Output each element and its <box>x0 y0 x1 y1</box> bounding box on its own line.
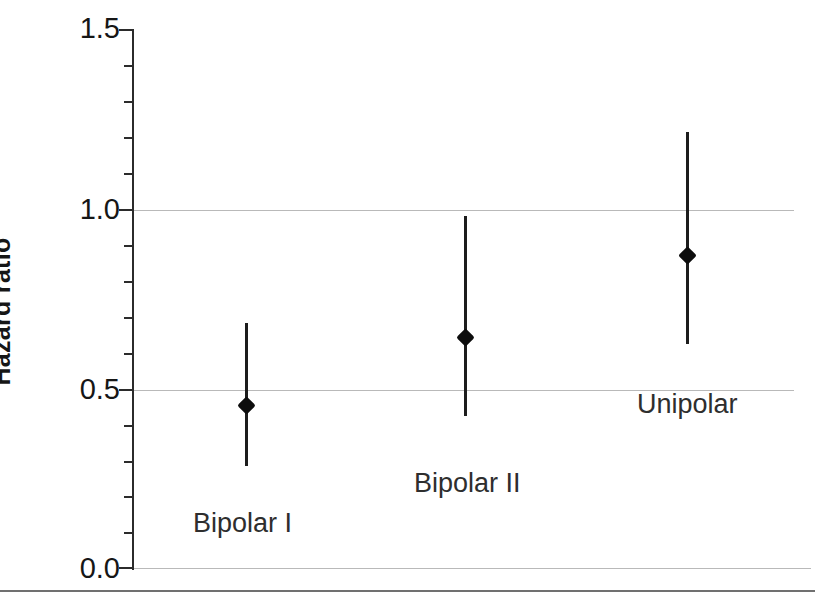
y-tick-minor-1-2 <box>124 137 133 139</box>
category-label-bipolar-i: Bipolar I <box>193 510 292 537</box>
figure-bottom-rule <box>0 590 815 592</box>
gridline-0-0 <box>132 568 811 569</box>
y-axis-spine <box>132 29 134 570</box>
y-tick-label-0-0: 0.0 <box>48 554 120 583</box>
hazard-ratio-chart: Hazard ratio 1.5 1.0 0.5 0.0 Bipolar I B… <box>0 0 815 607</box>
y-tick-minor-0-4 <box>124 425 133 427</box>
marker-bipolar-i <box>237 396 255 414</box>
y-tick-major-1-5 <box>119 29 133 31</box>
y-tick-label-1-0: 1.0 <box>48 195 120 224</box>
y-tick-minor-0-8 <box>124 281 133 283</box>
y-tick-major-0-5 <box>119 389 133 391</box>
gridline-1-0 <box>132 210 794 211</box>
y-tick-minor-1-3 <box>124 101 133 103</box>
y-tick-minor-0-1 <box>124 532 133 534</box>
y-tick-minor-1-1 <box>124 173 133 175</box>
y-axis-title-text: Hazard ratio <box>0 237 16 385</box>
errorbar-bipolar-i <box>245 323 248 466</box>
y-tick-minor-0-9 <box>124 245 133 247</box>
y-tick-major-1-0 <box>119 209 133 211</box>
y-tick-label-0-5: 0.5 <box>48 375 120 404</box>
y-tick-minor-1-4 <box>124 65 133 67</box>
y-tick-minor-0-7 <box>124 317 133 319</box>
y-tick-minor-0-3 <box>124 461 133 463</box>
errorbar-unipolar <box>686 132 689 344</box>
y-tick-minor-0-2 <box>124 496 133 498</box>
errorbar-bipolar-ii <box>464 216 467 416</box>
y-axis-title: Hazard ratio <box>0 0 46 607</box>
marker-bipolar-ii <box>456 328 474 346</box>
y-tick-label-1-5: 1.5 <box>48 14 120 43</box>
category-label-bipolar-ii: Bipolar II <box>414 470 521 497</box>
y-tick-major-0-0 <box>119 567 133 569</box>
category-label-unipolar: Unipolar <box>637 391 738 418</box>
marker-unipolar <box>678 246 696 264</box>
y-tick-minor-0-6 <box>124 353 133 355</box>
